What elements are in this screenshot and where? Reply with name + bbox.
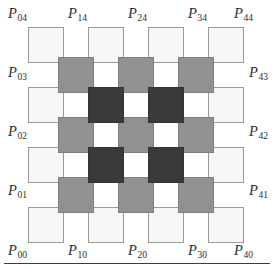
- lattice-square-dark-D-0-1: [88, 87, 124, 123]
- node-label-p14: P14: [68, 6, 87, 24]
- node-label-p00: P00: [8, 243, 27, 261]
- label-base: P: [188, 242, 197, 258]
- label-subscript: 24: [137, 13, 147, 23]
- lattice-square-dark-D-1-0: [148, 147, 184, 183]
- label-base: P: [249, 64, 258, 80]
- label-subscript: 02: [17, 131, 27, 141]
- label-base: P: [8, 123, 17, 139]
- node-label-p42: P42: [249, 124, 268, 142]
- node-label-p20: P20: [128, 243, 147, 261]
- node-label-p04: P04: [8, 6, 27, 24]
- label-base: P: [8, 5, 17, 21]
- node-label-p34: P34: [188, 6, 207, 24]
- node-label-p03: P03: [8, 65, 27, 83]
- label-subscript: 01: [17, 190, 27, 200]
- label-subscript: 44: [243, 13, 253, 23]
- label-base: P: [249, 182, 258, 198]
- node-label-p01: P01: [8, 183, 27, 201]
- lattice-figure: P04P14P24P34P44P03P02P01P43P42P41P00P10P…: [0, 0, 272, 269]
- node-label-p40: P40: [234, 243, 253, 261]
- node-label-p41: P41: [249, 183, 268, 201]
- lattice-square-dark-D-1-1: [148, 87, 184, 123]
- node-label-p24: P24: [128, 6, 147, 24]
- lattice-square-dark-D-0-0: [88, 147, 124, 183]
- label-subscript: 43: [258, 72, 268, 82]
- label-subscript: 14: [77, 13, 87, 23]
- label-base: P: [128, 5, 137, 21]
- node-label-p30: P30: [188, 243, 207, 261]
- label-base: P: [249, 123, 258, 139]
- label-subscript: 10: [77, 250, 87, 260]
- label-subscript: 20: [137, 250, 147, 260]
- label-subscript: 04: [17, 13, 27, 23]
- label-base: P: [234, 242, 243, 258]
- label-base: P: [68, 242, 77, 258]
- label-base: P: [234, 5, 243, 21]
- label-base: P: [8, 242, 17, 258]
- label-subscript: 34: [197, 13, 207, 23]
- label-base: P: [8, 64, 17, 80]
- node-label-p02: P02: [8, 124, 27, 142]
- label-base: P: [128, 242, 137, 258]
- label-subscript: 42: [258, 131, 268, 141]
- node-label-p10: P10: [68, 243, 87, 261]
- node-label-p43: P43: [249, 65, 268, 83]
- bottom-horizontal-rule: [4, 263, 270, 264]
- label-subscript: 03: [17, 72, 27, 82]
- label-subscript: 40: [243, 250, 253, 260]
- label-subscript: 30: [197, 250, 207, 260]
- label-base: P: [8, 182, 17, 198]
- label-subscript: 41: [258, 190, 268, 200]
- label-subscript: 00: [17, 250, 27, 260]
- node-label-p44: P44: [234, 6, 253, 24]
- label-base: P: [188, 5, 197, 21]
- label-base: P: [68, 5, 77, 21]
